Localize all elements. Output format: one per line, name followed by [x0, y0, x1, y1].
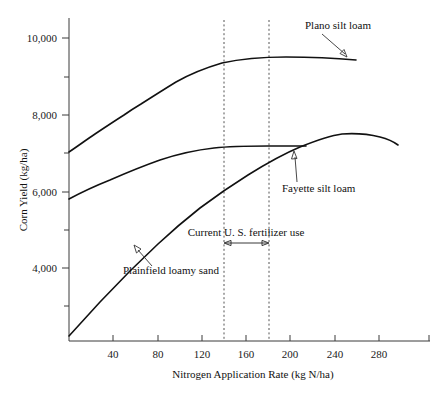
x-tick-label-120: 120 [194, 348, 211, 360]
x-tick-label-240: 240 [327, 348, 344, 360]
chart-container: 10,000 8,000 6,000 4,000 Corn Yield (kg/… [0, 0, 444, 395]
fayette-label: Fayette silt loam [282, 182, 356, 194]
y-tick-label-8000: 8,000 [32, 109, 57, 121]
x-tick-label-80: 80 [153, 348, 165, 360]
x-tick-label-200: 200 [282, 348, 299, 360]
plainfield-label: Plainfield loamy sand [123, 264, 219, 276]
series-curve-fayette-silt-loam [69, 146, 306, 199]
y-tick-label-4000: 4,000 [32, 262, 57, 274]
x-tick-label-40: 40 [108, 348, 120, 360]
y-axis-tick-labels: 10,000 8,000 6,000 4,000 [27, 32, 58, 274]
x-axis-tick-labels: 40 80 120 160 200 240 280 [108, 348, 388, 360]
x-axis-title: Nitrogen Application Rate (kg N/ha) [172, 368, 334, 381]
fertilizer-use-span-arrow [224, 240, 269, 245]
fertilizer-use-label: Current U. S. fertilizer use [188, 226, 305, 238]
y-tick-label-10000: 10,000 [27, 32, 58, 44]
fayette-arrowhead [292, 151, 298, 159]
annotation-plainfield: Plainfield loamy sand [123, 245, 219, 276]
y-axis-title: Corn Yield (kg/ha) [17, 148, 30, 231]
y-axis-ticks [62, 38, 69, 306]
x-tick-label-160: 160 [238, 348, 255, 360]
plano-label: Plano silt loam [305, 19, 371, 31]
plano-leader-line [322, 34, 345, 54]
chart-canvas: 10,000 8,000 6,000 4,000 Corn Yield (kg/… [0, 0, 444, 395]
series-curve-plano-silt-loam [69, 57, 356, 152]
x-tick-label-280: 280 [371, 348, 388, 360]
x-axis-ticks [113, 335, 429, 341]
fayette-leader-line [295, 157, 297, 182]
annotation-plano: Plano silt loam [305, 19, 371, 57]
annotation-fayette: Fayette silt loam [282, 151, 356, 194]
axes-group [69, 18, 430, 341]
series-group [69, 57, 398, 336]
y-tick-label-6000: 6,000 [32, 186, 57, 198]
